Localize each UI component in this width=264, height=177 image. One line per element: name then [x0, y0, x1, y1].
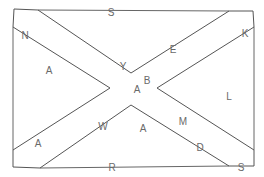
- label-upper-right-diagonal: E: [170, 44, 177, 55]
- corner-bottom-left: [13, 150, 40, 168]
- label-lower-right-diagonal: M: [179, 116, 187, 127]
- frame-top-edge: [38, 10, 229, 11]
- label-lower-right-band: D: [196, 142, 203, 153]
- x-junction-diagram: S N A Y E K B A L A W A M D R S: [0, 0, 264, 177]
- upper-diagonal-edge: [38, 10, 229, 73]
- label-right-region: L: [226, 91, 232, 102]
- frame-bottom-edge: [40, 166, 229, 168]
- label-left-region: A: [46, 65, 53, 76]
- corner-top-left: [13, 9, 38, 27]
- label-lower-left-region: A: [35, 138, 42, 149]
- label-lower-left-diagonal: W: [98, 121, 108, 132]
- label-bottom-right-corner: S: [238, 162, 245, 173]
- label-center: A: [134, 84, 141, 95]
- label-top-edge: S: [108, 7, 115, 18]
- label-bottom-edge: R: [108, 162, 115, 173]
- label-upper-left-band: N: [21, 30, 28, 41]
- left-chevron-edge: [13, 27, 110, 150]
- corner-top-right: [229, 11, 254, 27]
- label-center-upper: B: [144, 75, 151, 86]
- label-upper-left-diagonal: Y: [120, 61, 127, 72]
- label-lower-center-region: A: [140, 123, 147, 134]
- label-upper-right-band: K: [242, 28, 249, 39]
